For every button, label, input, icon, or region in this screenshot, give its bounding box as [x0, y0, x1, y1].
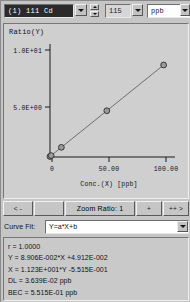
toolbar: (1) 111 Cd 115 ppb: [1, 1, 190, 23]
chevron-down-icon: [78, 9, 84, 12]
internal-standard-select[interactable]: 115: [105, 4, 143, 18]
internal-standard-value[interactable]: 115: [105, 4, 131, 18]
x-tick-label: 0: [50, 166, 54, 173]
data-point[interactable]: [58, 144, 64, 150]
curve-fit-select[interactable]: Y=a*X+b: [45, 220, 189, 234]
x-axis-label: Conc.(X) [ppb]: [80, 181, 137, 188]
fit-statistics-panel: r = 1.0000 Y = 8.906E-002*X +4.912E-002 …: [3, 237, 189, 301]
calibration-plot[interactable]: Ratio(Y) 1.0E+01 5.0E+00 0 50.00 100.00 …: [3, 23, 189, 199]
unit-dropdown-button[interactable]: [180, 4, 190, 16]
element-spinner-up-button[interactable]: [90, 4, 99, 10]
zoom-toolbar: < - Zoom Ratio: 1 + ++ >: [3, 201, 189, 217]
stat-correlation: r = 1.0000: [8, 241, 188, 252]
calibration-curve-panel: (1) 111 Cd 115 ppb Ra: [0, 0, 190, 302]
x-tick-label: 100.00: [154, 166, 179, 173]
zoom-back-all-button[interactable]: < -: [3, 201, 33, 216]
y-tick-label: 5.0E+00: [13, 105, 42, 112]
stat-bec: BEC = 5.515E-01 ppb: [8, 287, 188, 298]
chevron-down-icon: [180, 225, 186, 228]
stat-detection-limit: DL = 3.639E-02 ppb: [8, 275, 188, 286]
y-tick-label: 1.0E+01: [13, 48, 42, 55]
x-tick-label: 50.00: [99, 166, 120, 173]
data-point[interactable]: [161, 62, 167, 68]
curve-fit-value[interactable]: Y=a*X+b: [45, 220, 189, 234]
curve-fit-label: Curve Fit:: [4, 223, 35, 230]
curve-fit-dropdown-button[interactable]: [177, 221, 188, 232]
caret-down-icon: [93, 13, 97, 15]
zoom-in-button[interactable]: +: [136, 201, 162, 216]
zoom-back-button[interactable]: [34, 201, 64, 216]
element-select[interactable]: (1) 111 Cd: [4, 4, 87, 18]
caret-up-icon: [93, 6, 97, 8]
element-select-value[interactable]: (1) 111 Cd: [4, 4, 74, 18]
element-select-dropdown-button[interactable]: [75, 4, 87, 16]
data-point[interactable]: [48, 153, 54, 159]
zoom-ratio-label: Zoom Ratio: 1: [65, 201, 135, 216]
internal-standard-dropdown-button[interactable]: [132, 4, 143, 16]
unit-select[interactable]: ppb: [147, 4, 190, 18]
chevron-down-icon: [182, 9, 188, 12]
stat-forward-equation: Y = 8.906E-002*X +4.912E-002: [8, 252, 188, 263]
chevron-down-icon: [135, 9, 141, 12]
curve-fit-row: Curve Fit: Y=a*X+b: [3, 220, 189, 235]
element-spinner-down-button[interactable]: [90, 11, 99, 17]
element-spinner[interactable]: [90, 4, 99, 17]
data-point[interactable]: [104, 108, 110, 114]
plot-canvas[interactable]: 1.0E+01 5.0E+00 0 50.00 100.00 Conc.(X) …: [4, 24, 188, 198]
stat-inverse-equation: X = 1.123E+001*Y -5.515E-001: [8, 264, 188, 275]
data-series[interactable]: [47, 62, 166, 159]
zoom-forward-button[interactable]: ++ >: [163, 201, 189, 216]
